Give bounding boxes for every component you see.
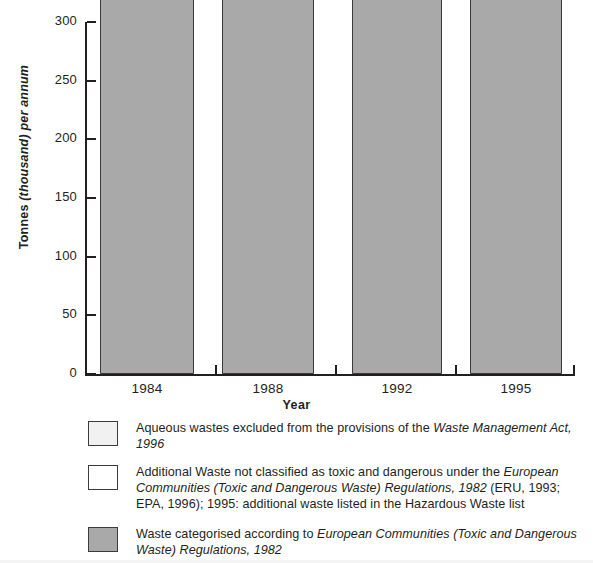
- y-tick-mark: [87, 373, 96, 375]
- x-category-label-1992: 1992: [332, 382, 462, 396]
- y-axis-line: [85, 22, 87, 376]
- legend-item-1[interactable]: Additional Waste not classified as toxic…: [88, 464, 588, 512]
- y-tick-label: 100: [45, 249, 77, 262]
- legend-label: Waste categorised according to European …: [136, 526, 588, 558]
- x-tick-mark: [455, 365, 457, 375]
- legend-label: Additional Waste not classified as toxic…: [136, 464, 588, 512]
- legend-swatch-light: [88, 421, 118, 446]
- y-tick-label: 200: [45, 131, 77, 144]
- y-axis-title-plain: Tonnes: [17, 201, 31, 249]
- legend-label-plain: Waste categorised according to: [136, 527, 317, 541]
- y-tick-mark: [87, 80, 96, 82]
- x-category-label-1984: 1984: [80, 382, 214, 396]
- x-category-label-1988: 1988: [202, 382, 334, 396]
- bar-segment-1992-grey[interactable]: 99,393: [352, 0, 442, 374]
- y-tick-mark: [87, 256, 96, 258]
- x-tick-mark: [573, 365, 575, 375]
- y-tick-mark: [87, 314, 96, 316]
- y-axis-title-italic: (thousand) per annum: [17, 65, 31, 201]
- x-axis-line: [85, 374, 575, 376]
- y-tick-label: 300: [45, 14, 77, 27]
- bar-segment-1995-grey[interactable]: 119,456: [470, 0, 562, 374]
- x-tick-mark: [215, 365, 217, 375]
- y-tick-label: 50: [45, 307, 77, 320]
- legend-swatch-white: [88, 465, 118, 490]
- legend-label-plain: Aqueous wastes excluded from the provisi…: [136, 421, 433, 435]
- y-tick-label: 0: [45, 366, 77, 379]
- y-tick-mark: [87, 138, 96, 140]
- legend-swatch-grey: [88, 527, 118, 552]
- bar-group-1995[interactable]: 119,45665,71658,582: [470, 0, 562, 374]
- legend-item-0[interactable]: Aqueous wastes excluded from the provisi…: [88, 420, 588, 452]
- x-category-label-1995: 1995: [450, 382, 582, 396]
- legend-item-2[interactable]: Waste categorised according to European …: [88, 526, 588, 558]
- y-tick-label: 150: [45, 190, 77, 203]
- bar-chart: 050100150200250300 108,50052,50056,00012…: [0, 0, 593, 400]
- y-tick-mark: [87, 197, 96, 199]
- y-tick-mark: [87, 21, 96, 23]
- y-tick-label: 250: [45, 73, 77, 86]
- bar-group-1984[interactable]: 52,50056,000: [100, 0, 194, 374]
- legend-label: Aqueous wastes excluded from the provisi…: [136, 420, 588, 452]
- bar-group-1988[interactable]: 72,85056,000: [222, 0, 314, 374]
- x-tick-mark: [335, 365, 337, 375]
- legend-label-plain: Additional Waste not classified as toxic…: [136, 465, 504, 479]
- bar-group-1992[interactable]: 99,39340,200: [352, 0, 442, 374]
- bar-segment-1988-grey[interactable]: 72,850: [222, 0, 314, 374]
- bar-segment-1984-grey[interactable]: 52,500: [100, 0, 194, 374]
- y-axis-title: Tonnes (thousand) per annum: [17, 47, 31, 267]
- x-axis-title: Year: [0, 398, 593, 412]
